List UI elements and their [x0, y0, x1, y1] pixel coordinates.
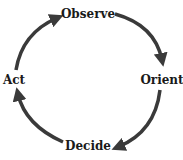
arrow-act-to-observe	[16, 18, 57, 70]
node-observe: Observe	[61, 7, 115, 21]
arrow-decide-to-act	[18, 94, 63, 142]
ooda-loop-diagram: Observe Orient Decide Act	[0, 0, 183, 160]
node-decide: Decide	[65, 139, 111, 153]
node-orient: Orient	[140, 73, 183, 87]
arrow-orient-to-decide	[118, 90, 160, 147]
node-act: Act	[3, 73, 25, 87]
arrow-observe-to-orient	[115, 14, 162, 60]
